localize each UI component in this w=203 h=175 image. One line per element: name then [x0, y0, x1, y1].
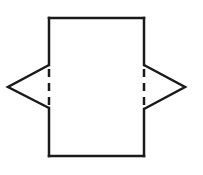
right-triangle-flap: [144, 65, 185, 109]
diagram-canvas: [0, 0, 203, 175]
fold-lines: [49, 69, 144, 107]
right-triangle-outline: [144, 65, 185, 109]
left-triangle-flap: [8, 65, 49, 108]
rectangle-body: [49, 18, 144, 156]
left-triangle-outline: [8, 65, 49, 108]
net-diagram: [0, 0, 203, 175]
